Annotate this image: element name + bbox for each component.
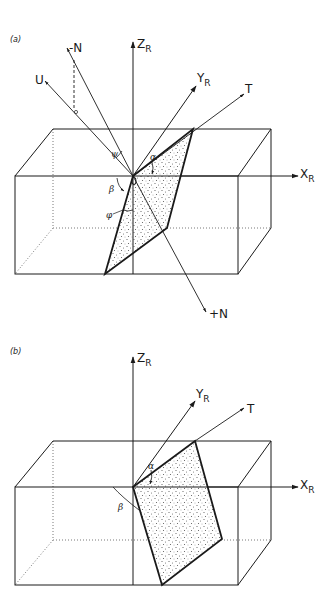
angle-beta-label-b: β [117, 502, 123, 512]
x-axis-label-b: XR [300, 478, 315, 495]
fault-plane-b [133, 441, 222, 585]
x-axis-label-a: XR [300, 167, 315, 184]
t-vector-label-a: T [244, 82, 253, 96]
u-vector-label-a: U [35, 73, 44, 87]
plus-n-label-a: +N [209, 307, 228, 321]
panel-a: (a) ZR XR [10, 35, 315, 321]
y-axis-label-b: YR [195, 387, 210, 404]
angle-arc-beta-a [117, 178, 124, 191]
panel-b: (b) ZR XR YR T [10, 347, 315, 585]
t-vector-label-b: T [246, 402, 255, 416]
z-axis-label-a: ZR [137, 37, 152, 54]
angle-psi-label-a: ψ [111, 149, 119, 159]
angle-beta-label-a: β [108, 184, 114, 194]
angle-alpha-label-b: α [148, 461, 154, 471]
y-axis-label-a: YR [196, 71, 211, 88]
fault-plane-a [105, 129, 193, 274]
figure-canvas: (a) ZR XR [0, 0, 330, 613]
right-angle-marker-a [74, 110, 77, 113]
panel-a-label: (a) [10, 35, 21, 44]
t-vector-a [133, 94, 244, 176]
t-vector-b [195, 408, 244, 441]
angle-alpha-label-a: α [150, 152, 156, 162]
panel-b-label: (b) [10, 347, 21, 356]
minus-n-vector-a [67, 48, 133, 176]
z-axis-label-b: ZR [137, 351, 152, 368]
angle-phi-label-a: φ [106, 210, 113, 220]
minus-n-label-a: -N [69, 41, 82, 55]
